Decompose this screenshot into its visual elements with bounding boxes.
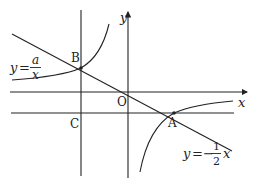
line-eq-var: x bbox=[223, 146, 231, 161]
line-eq-numerator: 1 bbox=[213, 140, 220, 153]
hyperbola-eq-lhs: y bbox=[9, 60, 18, 75]
hyperbola-eq-sign: = bbox=[19, 60, 30, 75]
diagram-canvas: y x O B C A y = a x y =− 1 2 x bbox=[0, 0, 263, 183]
line-eq-sign: =− bbox=[192, 146, 214, 161]
point-b-dot bbox=[79, 66, 83, 70]
line-equation: y =− 1 2 x bbox=[182, 140, 231, 168]
point-a-label: A bbox=[167, 116, 177, 130]
point-c-label: C bbox=[70, 117, 79, 131]
y-axis-label: y bbox=[119, 10, 128, 25]
hyperbola-equation: y = a x bbox=[9, 53, 41, 82]
point-a-dot bbox=[172, 111, 176, 115]
x-axis-label: x bbox=[238, 95, 246, 110]
origin-label: O bbox=[117, 95, 127, 109]
hyperbola-eq-numerator: a bbox=[32, 53, 39, 67]
point-b-label: B bbox=[71, 51, 80, 65]
line-eq-denominator: 2 bbox=[213, 155, 220, 168]
diagram-svg: y x O B C A y = a x y =− 1 2 x bbox=[0, 0, 263, 183]
hyperbola-eq-denominator: x bbox=[32, 68, 39, 82]
line-eq-lhs: y bbox=[182, 146, 191, 161]
